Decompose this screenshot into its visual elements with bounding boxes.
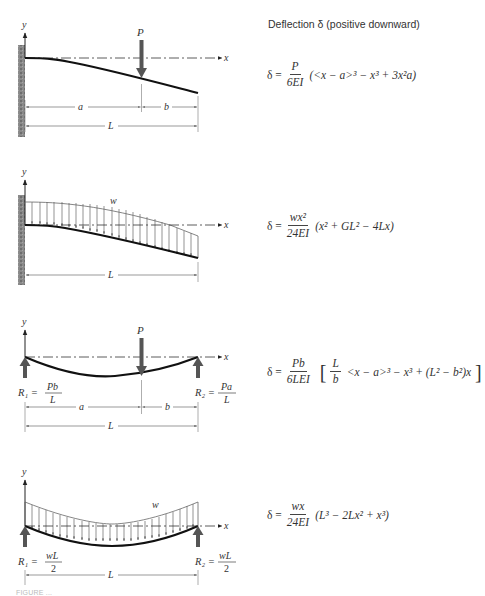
r2-label: R₂ = (194, 387, 215, 398)
y-axis-label: y (21, 19, 27, 30)
formula-denominator: 6EI (287, 75, 304, 89)
formula-denominator: 24EI (287, 226, 309, 240)
distributed-load-arrows (32, 504, 193, 541)
x-axis-label: x (223, 219, 229, 230)
formula-fraction: Pb 6LEI (287, 357, 310, 386)
formula-denominator: 6LEI (287, 372, 310, 386)
load-arrow-shaft (140, 338, 144, 368)
r2-label: R₂ = (194, 556, 215, 567)
deflected-beam (25, 526, 198, 546)
formula-lhs: δ = (267, 366, 282, 378)
r1-label: R₁ = (17, 387, 38, 398)
dim-L-label: L (107, 269, 114, 280)
reaction-r1-shaft (23, 364, 27, 378)
reaction-r2-shaft (196, 364, 200, 378)
y-axis-label: y (21, 166, 27, 177)
formula-inner-denominator: b (333, 372, 339, 386)
deflected-beam (25, 58, 198, 93)
r2-numerator: wL (219, 550, 232, 561)
r1-denominator: 2 (51, 563, 56, 574)
dim-L-label: L (107, 569, 114, 580)
diagram-cantilever-uniform-load: y w x L (0, 140, 240, 285)
reaction-r1-shaft (23, 533, 27, 547)
formula-simply-supported-uniform-load: δ = wx 24EI (L³ − 2Lx² + x³) (267, 500, 389, 529)
x-axis-label: x (223, 52, 229, 63)
formula-fraction: P 6EI (287, 60, 304, 89)
load-label: P (136, 26, 144, 38)
reaction-r2-shaft (196, 533, 200, 547)
load-label: w (152, 499, 159, 510)
formula-fraction: wx 24EI (287, 500, 309, 529)
formula-bracket-open: [ (320, 362, 327, 382)
y-axis-label: y (21, 466, 27, 477)
formula-expression: (L³ − 2Lx² + x³) (315, 509, 389, 521)
formula-cantilever-uniform-load: δ = wx² 24EI (x² + GL² − 4Lx) (267, 211, 394, 240)
r1-label: R₁ = (17, 556, 38, 567)
fixed-wall (18, 45, 25, 137)
dim-b-label: b (164, 101, 169, 112)
distributed-load-arrows (32, 202, 191, 256)
formula-numerator: Pb (290, 357, 307, 372)
formula-numerator: P (290, 60, 301, 75)
r1-numerator: wL (46, 550, 59, 561)
dim-b-label: b (165, 401, 170, 412)
diagram-simply-supported-uniform-load: y w x R₁ = wL 2 R₂ = (0, 435, 240, 585)
fixed-wall (18, 195, 25, 285)
r2-denominator: 2 (224, 563, 229, 574)
load-label: w (110, 195, 117, 206)
distributed-load-outline (25, 202, 198, 236)
load-arrow-shaft (140, 40, 144, 70)
dim-L-label: L (107, 120, 114, 131)
formula-lhs: δ = (267, 69, 282, 81)
formula-numerator: wx² (288, 211, 308, 226)
r1-denominator: L (49, 394, 56, 405)
r2-denominator: L (223, 394, 230, 405)
deflected-beam (25, 225, 198, 258)
formula-denominator: 24EI (287, 515, 309, 529)
formula-expression: (<x − a>³ − x³ + 3x²a) (309, 69, 416, 81)
formula-bracket-close: ] (475, 362, 482, 382)
formula-inner-fraction: L b (330, 357, 340, 386)
formula-lhs: δ = (267, 220, 282, 232)
figure-caption: FIGURE ... (16, 589, 52, 596)
formula-expression: <x − a>³ − x³ + (L² − b²)x (347, 366, 471, 378)
formula-expression: (x² + GL² − 4Lx) (315, 220, 394, 232)
distributed-load-outline (25, 502, 198, 524)
formula-simply-supported-point-load: δ = Pb 6LEI [ L b <x − a>³ − x³ + (L² − … (267, 357, 485, 386)
dim-a-label: a (79, 401, 84, 412)
r1-numerator: Pb (46, 381, 58, 392)
section-title: Deflection δ (positive downward) (268, 18, 420, 30)
y-axis-label: y (21, 316, 27, 327)
formula-lhs: δ = (267, 509, 282, 521)
load-label: P (136, 324, 144, 336)
formula-numerator: wx (290, 500, 307, 515)
formula-inner-numerator: L (330, 357, 340, 372)
dim-a-label: a (78, 101, 83, 112)
formula-fraction: wx² 24EI (287, 211, 309, 240)
dim-L-label: L (107, 420, 114, 431)
r2-numerator: Pa (220, 381, 232, 392)
diagram-simply-supported-point-load: y x P R₁ = Pb L R₂ = Pa L a b L (0, 285, 240, 435)
formula-cantilever-point-load: δ = P 6EI (<x − a>³ − x³ + 3x²a) (267, 60, 416, 89)
x-axis-label: x (223, 520, 229, 531)
deflected-beam (25, 357, 198, 376)
diagram-cantilever-point-load: y x P a b L (0, 0, 240, 140)
x-axis-label: x (223, 351, 229, 362)
